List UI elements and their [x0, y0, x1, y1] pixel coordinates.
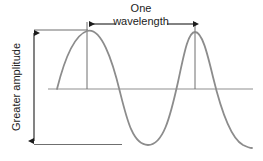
wavelength-label-line2: wavelength [112, 15, 169, 27]
amplitude-label: Greater amplitude [10, 43, 22, 131]
wave-diagram-svg: One wavelength Greater amplitude [0, 0, 263, 161]
wave-diagram-figure: One wavelength Greater amplitude [0, 0, 263, 161]
wavelength-label-line1: One [131, 2, 152, 14]
